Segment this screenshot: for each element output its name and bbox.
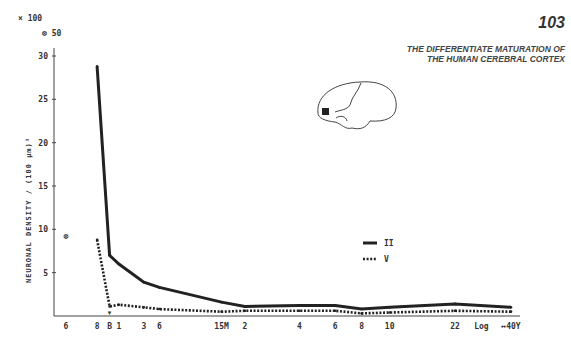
y-axis-label: NEURONAL DENSITY / (100 µm)³ [25,137,33,283]
data-point [454,303,457,306]
data-point [142,306,145,309]
data-point [244,310,247,313]
data-point [158,308,161,311]
x-tick-label: Log [474,322,489,331]
x-tick-label: 22 [450,322,460,331]
y-multiplier-label: × 100 [18,14,42,23]
x-tick-label: 2 [243,322,248,331]
data-point [454,310,457,313]
x-tick-label: 15M [214,322,229,331]
x-tick-label: 8 [359,322,364,331]
data-point [96,238,99,241]
data-point [220,310,223,313]
chart: × 100 ⊗ 50 NEURONAL DENSITY / (100 µm)³ … [0,0,571,343]
legend-label-v: V [384,255,389,264]
series-line-ii [97,66,511,309]
x-tick-label: 3 [141,322,146,331]
y-tick-label: 30 [38,52,48,61]
x-tick-label: B [107,322,112,331]
data-point [142,281,145,284]
data-point [388,306,391,309]
y-tick-label: 5 [43,269,48,278]
x-tick-label: 4 [297,322,302,331]
data-point [220,301,223,304]
data-point [388,311,391,314]
data-point [96,65,99,68]
legend-label-ii: II [384,239,394,248]
y-tick-label: 15 [38,182,48,191]
x-tick-label: 6 [64,322,69,331]
data-point [108,254,111,257]
birth-marker: ▼ [107,310,113,316]
data-point [244,305,247,308]
x-tick-label: 6 [333,322,338,331]
data-point [360,312,363,315]
data-point [360,308,363,311]
region-marker [322,108,329,115]
data-point [118,303,121,306]
y-tick-label: 25 [38,95,48,104]
x-tick-label: ↔40Y [501,322,520,331]
x-tick-label: 10 [385,322,395,331]
data-point [118,263,121,266]
outlier-point: ⊗ [64,232,69,241]
data-point [108,305,111,308]
y-tick-label: 20 [38,139,48,148]
y-secondary-label: ⊗ 50 [42,29,61,38]
data-point [510,310,513,313]
data-point [298,304,301,307]
data-point [510,306,513,309]
brain-inset-icon [318,82,396,129]
data-point [158,286,161,289]
x-tick-label: 8 [95,322,100,331]
data-point [298,310,301,313]
x-tick-label: 1 [116,322,121,331]
data-point [334,310,337,313]
x-tick-label: 6 [157,322,162,331]
y-tick-label: 10 [38,225,48,234]
data-point [334,304,337,307]
series-line-v [97,240,511,314]
